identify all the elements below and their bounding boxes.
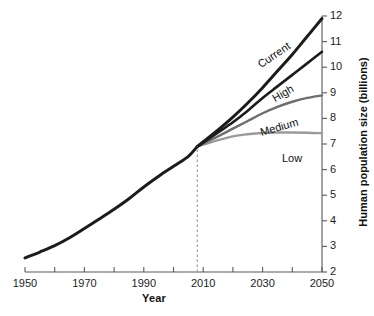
series-label-low: Low (282, 152, 302, 164)
series-line-historical (25, 147, 197, 258)
y-tick-label: 4 (330, 214, 336, 226)
x-tick-label: 1970 (64, 277, 104, 289)
x-tick-label: 2010 (183, 277, 223, 289)
series-line-medium (197, 95, 322, 146)
y-tick-label: 8 (330, 111, 336, 123)
x-tick-label: 2050 (302, 277, 342, 289)
y-tick-label: 3 (330, 239, 336, 251)
y-tick-label: 12 (330, 9, 342, 21)
y-tick-label: 5 (330, 188, 336, 200)
y-tick-label: 6 (330, 163, 336, 175)
x-axis-title-text: Year (142, 292, 166, 304)
y-axis-title-text: Human population size (billions) (357, 57, 369, 226)
y-axis-title: Human population size (billions) (353, 0, 373, 316)
x-tick-label: 1990 (124, 277, 164, 289)
x-tick-label: 2030 (243, 277, 283, 289)
y-tick-label: 10 (330, 60, 342, 72)
x-axis-title: Year (0, 292, 374, 304)
y-tick-label: 11 (330, 35, 341, 47)
y-tick-label: 7 (330, 137, 336, 149)
plot-area (0, 0, 374, 316)
y-tick-label: 2 (330, 265, 336, 277)
population-projection-chart: 19501970199020102030205023456789101112 C… (0, 0, 374, 316)
x-tick-label: 1950 (5, 277, 45, 289)
y-tick-label: 9 (330, 86, 336, 98)
